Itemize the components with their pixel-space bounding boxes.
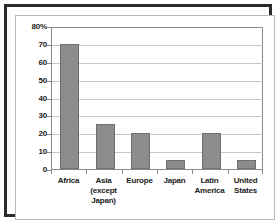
gridline xyxy=(52,81,263,82)
bar xyxy=(237,160,256,169)
plot-right-border xyxy=(262,27,263,169)
y-axis-tick-label: 60 xyxy=(11,59,47,67)
x-axis-category-label: Japan xyxy=(157,176,192,186)
plot-area xyxy=(51,27,263,170)
x-axis-tick-mark xyxy=(86,170,87,174)
y-axis-tick-label: 20 xyxy=(11,130,47,138)
x-axis: AfricaAsia(exceptJapan)EuropeJapanLatinA… xyxy=(51,176,263,220)
plot-top-border xyxy=(52,27,263,28)
bar xyxy=(96,124,115,169)
x-axis-category-label: LatinAmerica xyxy=(192,176,227,196)
y-axis-tick-label: 50 xyxy=(11,77,47,85)
x-axis-category-label-line: Japan xyxy=(157,176,192,186)
gridline xyxy=(52,134,263,135)
bar-chart-figure: 01020304050607080% AfricaAsia(exceptJapa… xyxy=(0,0,278,223)
y-axis-tick-label: 40 xyxy=(11,95,47,103)
x-axis-tick-mark xyxy=(122,170,123,174)
y-axis-tick-label: 30 xyxy=(11,112,47,120)
chart-outer-frame: 01020304050607080% AfricaAsia(exceptJapa… xyxy=(4,4,272,217)
gridline xyxy=(52,99,263,100)
x-axis-category-label-line: Europe xyxy=(122,176,157,186)
x-axis-category-label-line: Latin xyxy=(192,176,227,186)
x-axis-category-label: Asia(exceptJapan) xyxy=(86,176,121,206)
x-axis-category-label-line: States xyxy=(228,186,263,196)
x-axis-category-label: Africa xyxy=(51,176,86,186)
x-axis-category-label: Europe xyxy=(122,176,157,186)
x-axis-tick-mark xyxy=(228,170,229,174)
y-axis-tick-label: 80% xyxy=(11,23,47,31)
x-axis-tick-mark xyxy=(192,170,193,174)
bar xyxy=(60,44,79,169)
gridline xyxy=(52,152,263,153)
bar xyxy=(202,133,221,169)
x-axis-category-label-line: (except xyxy=(86,186,121,196)
x-axis-category-label-line: Japan) xyxy=(86,196,121,206)
x-axis-tick-mark xyxy=(51,170,52,174)
y-axis-tick-label: 0 xyxy=(11,166,47,174)
gridline xyxy=(52,45,263,46)
x-axis-category-label: UnitedStates xyxy=(228,176,263,196)
y-axis-tick-label: 70 xyxy=(11,41,47,49)
x-axis-tick-mark xyxy=(262,170,263,174)
x-axis-category-label-line: Africa xyxy=(51,176,86,186)
x-axis-ticks xyxy=(51,170,263,174)
y-axis-tick-label: 10 xyxy=(11,148,47,156)
bar xyxy=(166,160,185,169)
gridline xyxy=(52,116,263,117)
y-axis: 01020304050607080% xyxy=(7,27,47,170)
x-axis-category-label-line: United xyxy=(228,176,263,186)
x-axis-category-label-line: Asia xyxy=(86,176,121,186)
x-axis-tick-mark xyxy=(157,170,158,174)
bar xyxy=(131,133,150,169)
x-axis-category-label-line: America xyxy=(192,186,227,196)
gridline xyxy=(52,63,263,64)
